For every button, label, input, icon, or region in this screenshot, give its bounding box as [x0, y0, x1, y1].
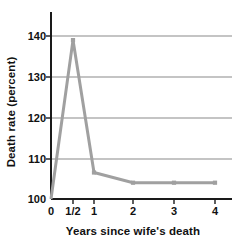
data-point-year-4	[213, 181, 217, 185]
chart-figure: Death rate (percent) 140 130 120 110 100…	[0, 0, 243, 249]
series-line-death-rate	[51, 40, 215, 199]
data-point-year-2	[131, 181, 135, 185]
gridlines	[51, 36, 232, 159]
data-point-year-1	[92, 170, 96, 174]
data-point-year-3	[172, 181, 176, 185]
data-point-year-1/2	[71, 38, 75, 42]
plot-area	[0, 0, 243, 249]
